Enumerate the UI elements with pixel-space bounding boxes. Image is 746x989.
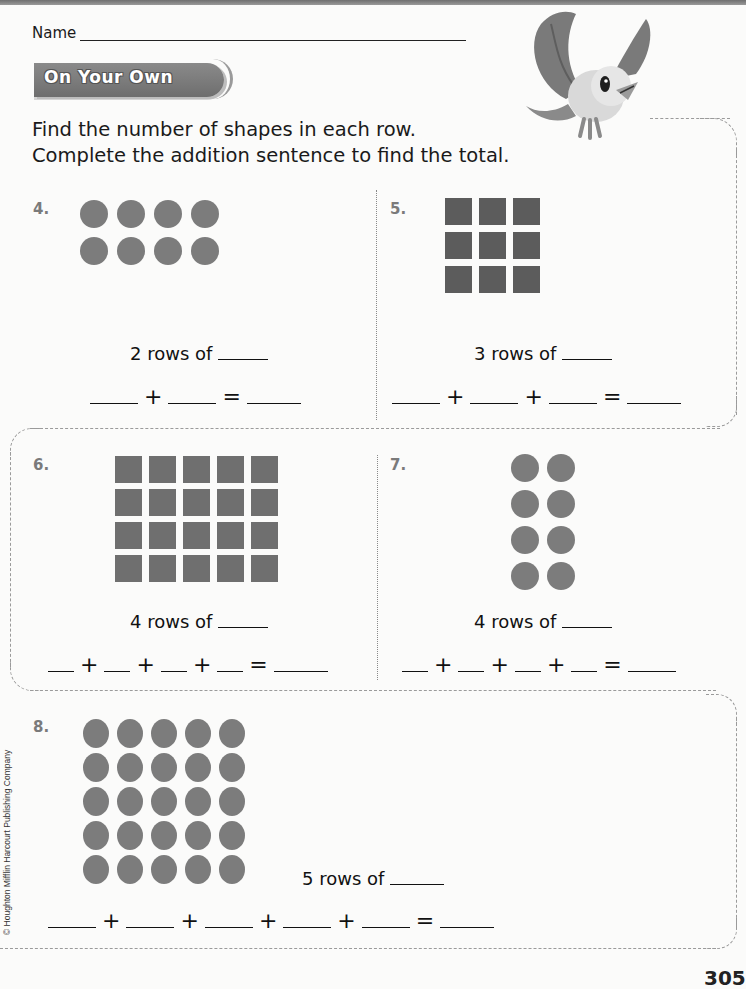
circle-shape (547, 490, 575, 518)
circle-shape (117, 753, 143, 782)
square-shape (479, 266, 506, 293)
addend-blank[interactable] (515, 671, 541, 672)
addend-blank[interactable] (217, 671, 243, 672)
addend-blank[interactable] (90, 403, 138, 404)
circle-shape (83, 753, 109, 782)
addend-blank[interactable] (48, 671, 74, 672)
addend-blank[interactable] (126, 927, 174, 928)
addend-blank[interactable] (283, 927, 331, 928)
answer-blank[interactable] (218, 627, 268, 628)
rows-of-caption-7: 4 rows of (474, 611, 612, 632)
bird-mascot-icon (496, 4, 656, 142)
square-shape (217, 555, 244, 582)
circle-shape (80, 200, 108, 228)
answer-blank[interactable] (562, 359, 612, 360)
rows-of-caption-6: 4 rows of (130, 611, 268, 632)
circle-shape (511, 490, 539, 518)
circle-shape (83, 787, 109, 816)
circle-shape (80, 237, 108, 265)
circle-shape (117, 787, 143, 816)
addend-blank[interactable] (470, 403, 518, 404)
rows-of-text: 4 rows of (130, 611, 212, 632)
box-left-border (10, 452, 11, 667)
circle-shape (83, 821, 109, 850)
square-shape (251, 555, 278, 582)
circle-shape (219, 821, 245, 850)
plus-sign: + (428, 654, 458, 676)
rows-of-caption-8: 5 rows of (302, 868, 444, 889)
addend-blank[interactable] (571, 671, 597, 672)
square-shape (149, 522, 176, 549)
square-shape (251, 522, 278, 549)
square-shape (513, 232, 540, 259)
circle-shape (83, 855, 109, 884)
addend-blank[interactable] (549, 403, 597, 404)
square-shape (115, 489, 142, 516)
circle-shape (219, 719, 245, 748)
circle-shape (219, 787, 245, 816)
addend-blank[interactable] (161, 671, 187, 672)
circle-shape (547, 454, 575, 482)
circle-shape (219, 855, 245, 884)
circle-shape (83, 719, 109, 748)
answer-blank[interactable] (390, 884, 444, 885)
box-corner (706, 396, 737, 427)
problem-number: 7. (390, 456, 406, 474)
rows-of-text: 3 rows of (474, 343, 556, 364)
problem-number: 8. (33, 718, 49, 736)
answer-blank[interactable] (218, 359, 268, 360)
plus-sign: + (74, 654, 104, 676)
circle-shape (547, 562, 575, 590)
addend-blank[interactable] (392, 403, 440, 404)
square-shape (445, 198, 472, 225)
circle-shape (511, 526, 539, 554)
name-input-line[interactable] (80, 40, 466, 41)
circle-shape (151, 753, 177, 782)
box-corner (706, 694, 737, 725)
circle-shape (154, 200, 182, 228)
square-shape (217, 456, 244, 483)
circle-shape (185, 855, 211, 884)
addend-blank[interactable] (402, 671, 428, 672)
square-shape (445, 266, 472, 293)
addend-blank[interactable] (104, 671, 130, 672)
box-right-border (736, 150, 737, 415)
square-shape (251, 489, 278, 516)
plus-sign: + (440, 386, 470, 408)
square-shape (183, 489, 210, 516)
addend-blank[interactable] (362, 927, 410, 928)
square-shape (513, 198, 540, 225)
total-blank[interactable] (274, 671, 328, 672)
square-shape (115, 522, 142, 549)
addend-blank[interactable] (48, 927, 96, 928)
box-corner (706, 918, 737, 949)
problem-number: 4. (33, 200, 49, 218)
problem-number: 5. (390, 200, 406, 218)
addend-blank[interactable] (458, 671, 484, 672)
circle-shape (191, 237, 219, 265)
equals-sign: = (216, 386, 246, 408)
square-shape (445, 232, 472, 259)
equals-sign: = (597, 386, 627, 408)
box-border (30, 690, 716, 691)
total-blank[interactable] (247, 403, 301, 404)
plus-sign: + (253, 910, 283, 932)
answer-blank[interactable] (562, 627, 612, 628)
plus-sign: + (96, 910, 126, 932)
equation-7: +++= (402, 654, 676, 676)
rows-of-caption-5: 3 rows of (474, 343, 612, 364)
plus-sign: + (541, 654, 571, 676)
box-corner (700, 118, 737, 155)
circle-shape (117, 719, 143, 748)
addend-blank[interactable] (205, 927, 253, 928)
total-blank[interactable] (627, 403, 681, 404)
square-shape (217, 489, 244, 516)
plus-sign: + (138, 386, 168, 408)
addend-blank[interactable] (168, 403, 216, 404)
equation-8: ++++= (48, 910, 494, 932)
square-shape (149, 456, 176, 483)
divider-6-7 (377, 455, 378, 680)
section-banner-arc (200, 59, 233, 99)
total-blank[interactable] (440, 927, 494, 928)
total-blank[interactable] (628, 671, 676, 672)
